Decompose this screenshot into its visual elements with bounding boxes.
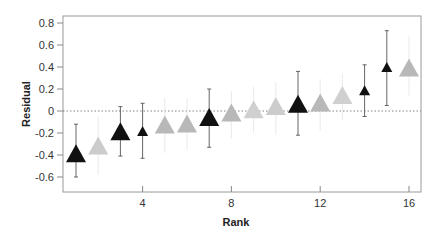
y-tick-label: -0.2	[35, 127, 54, 139]
residual-rank-chart: 0.80.60.40.20-0.2-0.4-0.6 481216 Residua…	[0, 0, 441, 238]
y-tick-label: 0.8	[39, 17, 54, 29]
x-tick-label: 4	[140, 197, 146, 209]
y-tick-label: 0.6	[39, 39, 54, 51]
y-tick-label: -0.6	[35, 171, 54, 183]
y-axis: 0.80.60.40.20-0.2-0.4-0.6	[35, 17, 63, 183]
y-axis-title: Residual	[20, 81, 32, 127]
y-tick-label: 0.4	[39, 61, 54, 73]
plot-area	[63, 16, 421, 192]
y-tick-label: 0	[48, 105, 54, 117]
x-tick-label: 8	[228, 197, 234, 209]
x-tick-label: 12	[314, 197, 326, 209]
y-tick-label: 0.2	[39, 83, 54, 95]
y-tick-label: -0.4	[35, 149, 54, 161]
x-axis-title: Rank	[223, 216, 251, 228]
x-tick-label: 16	[403, 197, 415, 209]
